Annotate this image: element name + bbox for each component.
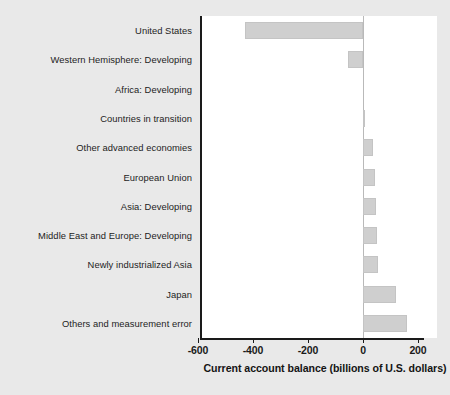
category-label: Japan <box>0 289 192 300</box>
x-axis-title: Current account balance (billions of U.S… <box>200 362 450 374</box>
x-tick-label: -400 <box>223 344 283 356</box>
x-tick-label: -200 <box>278 344 338 356</box>
x-tick-label: -600 <box>168 344 228 356</box>
x-tick-label: 0 <box>333 344 393 356</box>
category-label: Western Hemisphere: Developing <box>0 54 192 65</box>
y-axis-spine <box>200 16 202 339</box>
bar <box>348 51 363 68</box>
x-axis-spine <box>200 338 424 340</box>
x-tick-label: 200 <box>388 344 448 356</box>
category-label: Newly industrialized Asia <box>0 259 192 270</box>
bar <box>363 169 375 186</box>
category-label-column: United StatesWestern Hemisphere: Develop… <box>0 16 192 338</box>
category-label: European Union <box>0 172 192 183</box>
bar <box>363 286 396 303</box>
source-note-sliver <box>240 385 450 394</box>
category-label: Others and measurement error <box>0 318 192 329</box>
bar <box>245 22 363 39</box>
category-label: Asia: Developing <box>0 201 192 212</box>
bar <box>363 110 365 127</box>
category-label: United States <box>0 25 192 36</box>
x-tick-mark <box>418 338 419 343</box>
x-tick-mark <box>253 338 254 343</box>
bar <box>363 256 378 273</box>
category-label: Middle East and Europe: Developing <box>0 230 192 241</box>
bar <box>363 139 373 156</box>
chart-figure: United StatesWestern Hemisphere: Develop… <box>0 0 450 395</box>
category-label: Countries in transition <box>0 113 192 124</box>
bar <box>363 315 407 332</box>
bars-layer <box>200 16 437 338</box>
category-label: Other advanced economies <box>0 142 192 153</box>
bar <box>363 227 377 244</box>
bar <box>363 198 376 215</box>
category-label: Africa: Developing <box>0 84 192 95</box>
x-tick-mark <box>363 338 364 343</box>
x-tick-mark <box>308 338 309 343</box>
x-tick-mark <box>198 338 199 343</box>
